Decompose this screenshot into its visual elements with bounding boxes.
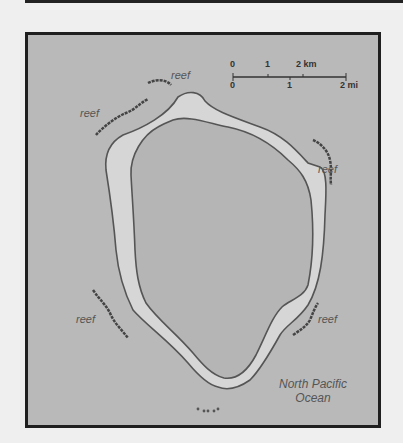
ocean-label-line1: North Pacific — [258, 377, 368, 391]
reef-southwest — [93, 290, 128, 338]
reef-label-northwest: reef — [80, 107, 99, 119]
scale-mi-2: 2 mi — [340, 80, 358, 90]
reef-south-dots — [197, 408, 220, 413]
reef-label-east: reef — [318, 163, 337, 175]
scale-km-1: 1 — [265, 59, 270, 69]
scale-mi-1: 1 — [287, 80, 292, 90]
atoll-shape — [28, 35, 378, 425]
scale-km-2: 2 km — [296, 59, 317, 69]
scale-km-0: 0 — [230, 59, 235, 69]
reef-label-southwest: reef — [76, 313, 95, 325]
atoll-map: 0 1 2 km 0 1 2 mi reef reef reef reef re… — [25, 32, 381, 428]
scale-mi-0: 0 — [230, 80, 235, 90]
lagoon — [131, 118, 313, 378]
reef-north — [148, 80, 171, 85]
reef-label-north: reef — [171, 69, 190, 81]
top-rule — [25, 0, 403, 3]
reef-label-southeast: reef — [318, 313, 337, 325]
ocean-label-line2: Ocean — [258, 391, 368, 405]
ocean-label: North Pacific Ocean — [258, 377, 368, 405]
